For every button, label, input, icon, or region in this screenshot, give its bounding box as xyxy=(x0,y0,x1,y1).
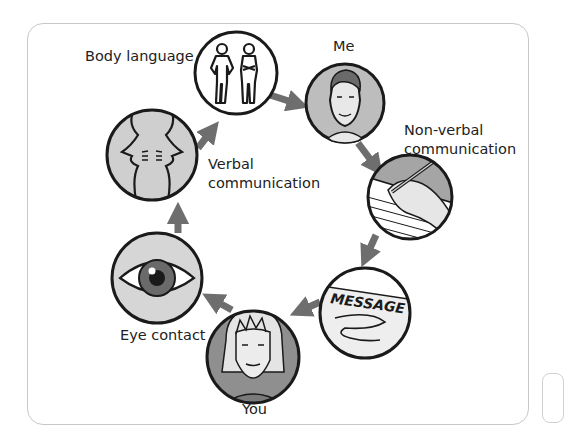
arrow-me-to-nonverbal xyxy=(358,143,376,167)
arrow-verbal-to-body xyxy=(198,130,212,148)
eye-icon xyxy=(112,233,202,323)
woman-face-icon xyxy=(207,310,299,410)
label-verbal-line1: Verbal xyxy=(208,155,254,174)
label-you: You xyxy=(242,400,267,419)
arrow-message-to-you xyxy=(300,302,320,311)
label-eye-contact: Eye contact xyxy=(120,326,206,345)
label-non-verbal-line1: Non-verbal xyxy=(404,121,483,140)
man-face-icon xyxy=(306,64,384,143)
label-non-verbal-line2: communication xyxy=(404,140,516,159)
arrow-nonverbal-to-message xyxy=(366,235,376,257)
label-verbal-line2: communication xyxy=(208,174,320,193)
arrow-body-to-me xyxy=(270,95,298,104)
two-people-posture-icon xyxy=(195,32,277,114)
two-faces-talking-icon xyxy=(107,110,197,200)
message-note-icon: MESSAGE xyxy=(315,268,415,370)
label-me: Me xyxy=(333,37,354,56)
arrow-you-to-eye xyxy=(212,299,232,310)
label-body-language: Body language xyxy=(85,47,194,66)
